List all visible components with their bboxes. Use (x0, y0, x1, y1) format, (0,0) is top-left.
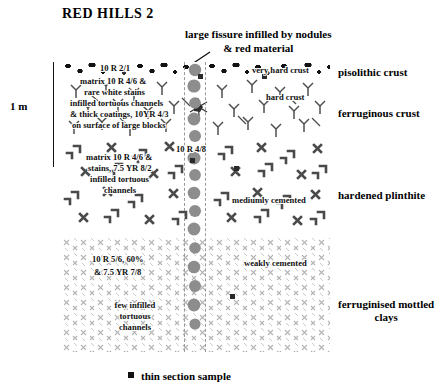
fissure-right-edge (205, 62, 206, 352)
annotation-few-infilled-1: few infilled (100, 300, 170, 311)
annotation-hard-crust: hard crust (266, 92, 304, 103)
thin-section-marker (198, 74, 203, 79)
scale-bar-line (53, 62, 54, 167)
legend-label: thin section sample (141, 370, 231, 382)
horizon-label-mottled-clays-line2: clays (338, 311, 434, 324)
annotation-mediumly-cemented: mediumly cemented (232, 195, 306, 206)
annotation-few-infilled-2: tortuous (100, 311, 170, 322)
horizon-label-mottled-clays: ferruginised mottled clays (338, 298, 434, 324)
fissure-callout-line1: large fissure infilled by nodules (185, 28, 331, 40)
horizon-label-pisolithic-crust: pisolithic crust (338, 66, 407, 79)
annotation-munsell-low-2: & 7.5 YR 7/8 (94, 267, 141, 278)
annotation-matrix-mid: matrix 10 R 4/6 & (86, 152, 152, 163)
horizon-label-hardened-plinthite: hardened plinthite (338, 189, 425, 202)
annotation-munsell-low-1: 10 R 5/6, 60% (92, 254, 144, 265)
thin-section-marker (190, 158, 195, 163)
annotation-infilled-top: infilled tortuous channels (70, 98, 163, 109)
soil-profile-column: 10 R 2/1 matrix 10 R 4/6 & rare white st… (62, 62, 330, 352)
annotation-weakly-cemented: weakly cemented (244, 258, 307, 269)
fissure-left-edge (184, 62, 185, 352)
legend: thin section sample (128, 366, 231, 384)
fissure-nodules-icon (184, 62, 206, 352)
annotation-large-blocks: on surface of large blocks (72, 120, 166, 131)
annotation-munsell-top: 10 R 2/1 (100, 63, 130, 74)
annotation-matrix-top: matrix 10 R 4/6 & (80, 76, 146, 87)
annotation-white-stains: rare white stains (84, 87, 145, 98)
thin-section-marker (234, 166, 239, 171)
thin-section-marker (230, 294, 235, 299)
thin-section-sample-swatch-icon (128, 372, 134, 378)
annotation-stains-mid: stains, 7.5 YR 8/2 (88, 163, 151, 174)
annotation-infilled-mid-2: channels (104, 185, 136, 196)
annotation-very-hard-crust: very hard crust (252, 65, 309, 76)
large-fissure (184, 62, 206, 352)
annotation-fissure-munsell: 10 R 4/8 (176, 144, 206, 155)
annotation-infilled-mid-1: infilled tortuous (90, 174, 149, 185)
horizon-label-mottled-clays-line1: ferruginised mottled (338, 298, 434, 310)
scale-bar: 1 m (8, 62, 60, 167)
horizon-label-ferruginous-crust: ferruginous crust (338, 107, 420, 120)
scale-bar-label: 1 m (10, 100, 27, 112)
page-title: RED HILLS 2 (62, 6, 154, 22)
annotation-few-infilled-3: channels (100, 322, 170, 333)
annotation-coatings: & thick coatings, 10YR 4/3 (70, 109, 169, 120)
